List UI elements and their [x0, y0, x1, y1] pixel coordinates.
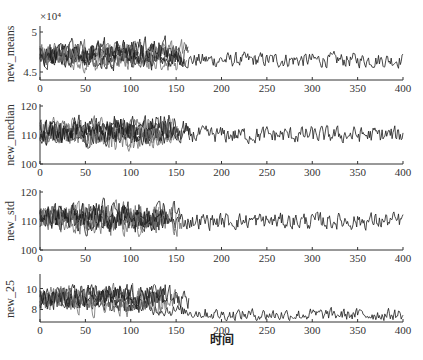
x-tick-label: 150 [168, 166, 185, 178]
x-tick-label: 100 [123, 324, 140, 336]
y-tick-label: 110 [21, 215, 38, 227]
y-tick-label: 4.5 [23, 66, 37, 78]
x-tick-label: 350 [349, 324, 366, 336]
x-tick-label: 350 [349, 82, 366, 94]
multi-panel-line-chart: 0501001502002503003504004.55new_means050… [0, 0, 423, 360]
x-axis-label: 时间 [210, 332, 234, 347]
x-tick-label: 50 [80, 166, 92, 178]
x-tick-label: 300 [304, 166, 321, 178]
x-tick-label: 150 [168, 252, 185, 264]
x-tick-label: 200 [213, 82, 230, 94]
y-tick-label: 5 [32, 26, 38, 38]
x-tick-label: 250 [259, 324, 276, 336]
y-tick-label: 120 [21, 186, 38, 198]
x-tick-label: 50 [80, 252, 92, 264]
panel-4: 050100150200250300350400810new_25 [3, 274, 412, 336]
x-tick-label: 400 [395, 324, 412, 336]
panel-2: 050100150200250300350400100110120new_med… [3, 100, 412, 178]
y-tick-label: 120 [21, 100, 38, 112]
panel-1: 0501001502002503003504004.55new_means [3, 25, 412, 94]
x-tick-label: 100 [123, 82, 140, 94]
x-tick-label: 100 [123, 252, 140, 264]
x-tick-label: 400 [395, 252, 412, 264]
y-tick-label: 100 [21, 158, 38, 170]
x-tick-label: 0 [37, 324, 43, 336]
y-tick-label: 110 [21, 129, 38, 141]
y-axis-label: new_std [3, 201, 17, 241]
x-tick-label: 400 [395, 166, 412, 178]
x-tick-label: 0 [37, 82, 43, 94]
y-tick-label: 100 [21, 244, 38, 256]
x-tick-label: 50 [80, 82, 92, 94]
y-multiplier-label: ×10⁴ [40, 10, 61, 22]
x-tick-label: 250 [259, 166, 276, 178]
x-tick-label: 300 [304, 252, 321, 264]
x-tick-label: 250 [259, 82, 276, 94]
y-axis-label: new_means [3, 25, 17, 82]
x-tick-label: 150 [168, 82, 185, 94]
y-axis-label: new_25 [3, 280, 17, 318]
x-tick-label: 400 [395, 82, 412, 94]
y-axis-label: new_median [3, 104, 17, 165]
y-tick-label: 10 [26, 283, 38, 295]
x-tick-label: 250 [259, 252, 276, 264]
x-tick-label: 300 [304, 324, 321, 336]
x-tick-label: 200 [213, 252, 230, 264]
x-tick-label: 300 [304, 82, 321, 94]
x-tick-label: 0 [37, 166, 43, 178]
x-tick-label: 100 [123, 166, 140, 178]
x-tick-label: 50 [80, 324, 92, 336]
y-tick-label: 8 [32, 303, 38, 315]
x-tick-label: 0 [37, 252, 43, 264]
x-tick-label: 150 [168, 324, 185, 336]
x-tick-label: 350 [349, 166, 366, 178]
panel-3: 050100150200250300350400100110120new_std [3, 186, 412, 264]
x-tick-label: 350 [349, 252, 366, 264]
x-tick-label: 200 [213, 166, 230, 178]
